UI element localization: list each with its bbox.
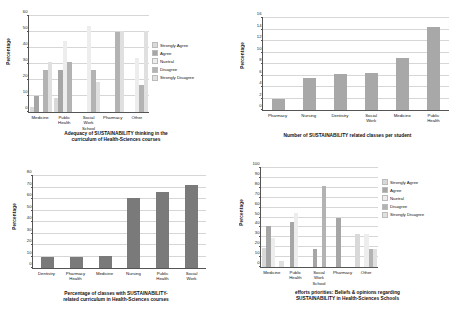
bar-group [125, 16, 149, 112]
bar [144, 31, 148, 112]
chart2-axes: 0246810121416 [262, 18, 449, 111]
bar-group [148, 176, 177, 268]
bar [279, 261, 283, 267]
chart4-plot: Percentage 0102030405060708090100 Medici… [232, 159, 463, 318]
y-tick-label: 4 [259, 80, 261, 85]
y-tick-label: 0 [25, 105, 27, 110]
bar-group [331, 168, 354, 267]
legend-label: Disagree [160, 67, 177, 72]
y-tick-label: 90 [255, 170, 260, 175]
legend-label: Nuetral [390, 196, 404, 201]
x-tick-label: Other [125, 115, 149, 131]
legend-label: Strongly Disagree [160, 75, 194, 80]
y-tick-label: 60 [23, 9, 28, 14]
y-tick-label: 40 [27, 215, 32, 220]
y-tick-label: 70 [27, 180, 32, 185]
y-tick-label: 12 [257, 34, 262, 39]
bar [41, 257, 54, 268]
legend-swatch-icon [152, 75, 158, 81]
bar-group [77, 16, 101, 112]
chart-panel-3: Percentage 01020304050607080 DentistryPh… [0, 159, 232, 318]
bar [313, 249, 317, 267]
figure-sheet: Percentage 0102030405060 MedicinePublic … [0, 0, 463, 318]
x-tick-label: Pharmacy [101, 115, 125, 131]
bar-group [418, 18, 449, 110]
chart2-x-labels: PharmacyNursingDentistrySocial WorkMedic… [262, 113, 449, 124]
x-tick-label: Public Health [418, 113, 449, 124]
legend-swatch-icon [382, 204, 388, 210]
chart-panel-1: Percentage 0102030405060 MedicinePublic … [0, 0, 232, 159]
x-tick-label: Public Health [52, 115, 76, 131]
legend-item: Nuetral [382, 195, 424, 201]
bar-group [387, 18, 418, 110]
y-tick-label: 70 [255, 190, 260, 195]
y-tick-label: 20 [255, 240, 260, 245]
bar [303, 78, 316, 110]
y-tick-label: 30 [27, 226, 32, 231]
bar-group [29, 16, 53, 112]
bar-area [29, 16, 149, 112]
chart4-legend: Strongly AgreeAgreeNuetralDisagreeStrong… [382, 179, 424, 218]
bar-group [308, 168, 331, 267]
legend-item: Strongly Agree [152, 42, 194, 48]
legend-swatch-icon [382, 212, 388, 218]
x-tick-label: Other [354, 270, 378, 286]
x-tick-label: Public Health [284, 270, 308, 286]
x-tick-label: Pharmacy Health [61, 271, 90, 282]
x-tick-label: Medicine [387, 113, 418, 124]
y-tick-label: 50 [23, 25, 28, 30]
x-tick-label: Medicine [90, 271, 119, 282]
bar-group [53, 16, 77, 112]
chart1-y-axis-label: Percentage [6, 38, 11, 65]
bar-area [261, 168, 378, 267]
bar-group [177, 176, 206, 268]
bar-area [263, 18, 449, 110]
bar [355, 234, 359, 267]
y-tick-label: 10 [23, 89, 28, 94]
chart3-x-labels: DentistryPharmacy HealthMedicineNursingP… [32, 271, 206, 282]
bar [70, 257, 83, 268]
bar [48, 62, 52, 112]
bar [96, 82, 100, 112]
y-tick-label: 50 [255, 210, 260, 215]
bar [99, 256, 112, 268]
bar-group [284, 168, 307, 267]
bar [67, 62, 71, 112]
legend-item: Strongly Disagree [382, 212, 424, 218]
bar [156, 192, 169, 268]
x-tick-label: Medicine [260, 270, 284, 286]
legend-item: Disagree [382, 204, 424, 210]
bar [272, 99, 285, 110]
y-tick-label: 100 [253, 161, 260, 166]
legend-swatch-icon [382, 179, 388, 185]
y-tick-label: 30 [255, 230, 260, 235]
y-tick-label: 10 [257, 45, 262, 50]
y-tick-label: 0 [257, 260, 259, 265]
bar [336, 218, 340, 268]
y-tick-label: 40 [23, 41, 28, 46]
bar-group [33, 176, 62, 268]
y-tick-label: 20 [27, 238, 32, 243]
bar [427, 27, 440, 110]
legend-swatch-icon [152, 50, 158, 56]
y-tick-label: 6 [259, 68, 261, 73]
bar [365, 73, 378, 110]
y-tick-label: 30 [23, 57, 28, 62]
y-tick-label: 80 [255, 180, 260, 185]
bar [185, 185, 198, 268]
legend-item: Nuetral [152, 58, 194, 64]
y-tick-label: 2 [259, 91, 261, 96]
legend-label: Agree [390, 188, 401, 193]
chart4-axes: 0102030405060708090100 [260, 168, 378, 268]
y-tick-label: 40 [255, 220, 260, 225]
x-tick-label: Dentistry [324, 113, 355, 124]
y-tick-label: 14 [257, 22, 262, 27]
chart1-caption: Adequacy of SUSTAINABILITY thinking in t… [0, 131, 232, 143]
chart-panel-4: Percentage 0102030405060708090100 Medici… [232, 159, 463, 318]
chart1-axes: 0102030405060 [28, 16, 149, 113]
bar-group [325, 18, 356, 110]
bar-group [263, 18, 294, 110]
bar-group [294, 18, 325, 110]
chart3-y-axis-label: Percentage [12, 203, 17, 230]
bar [127, 198, 140, 268]
